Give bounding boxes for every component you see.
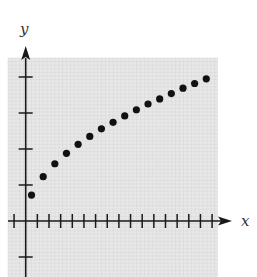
plot-background — [8, 58, 218, 277]
data-point — [75, 141, 82, 148]
data-point — [156, 95, 163, 102]
data-point — [40, 173, 47, 180]
data-point — [121, 112, 128, 119]
data-point — [168, 90, 175, 97]
scatter-chart: x y — [0, 0, 257, 277]
data-point — [133, 106, 140, 113]
data-point — [203, 75, 210, 82]
data-point — [179, 85, 186, 92]
data-point — [98, 125, 105, 132]
x-axis-label: x — [241, 212, 250, 230]
data-point — [191, 80, 198, 87]
data-point — [144, 100, 151, 107]
y-axis-label: y — [19, 20, 29, 38]
data-point — [28, 191, 35, 198]
data-point — [109, 119, 116, 126]
data-point — [63, 150, 70, 157]
data-point — [51, 160, 58, 167]
data-point — [86, 133, 93, 140]
